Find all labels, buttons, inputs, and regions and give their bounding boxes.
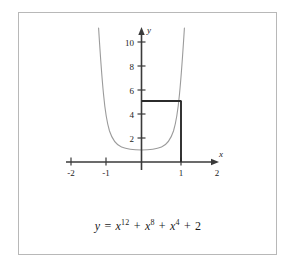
figure-root: 10 8 6 4 2 -2 -1 1 2 y x y = x12 + x8 + … xyxy=(0,0,296,271)
y-axis-label: y xyxy=(146,25,151,35)
y-tick-label-4: 4 xyxy=(130,110,135,120)
y-axis-arrowhead xyxy=(138,27,144,35)
y-tick-label-2: 2 xyxy=(130,134,135,144)
equation-term-3-exponent: 4 xyxy=(176,218,180,227)
equation-plus-1: + xyxy=(133,219,142,233)
x-tick-label-1: 1 xyxy=(179,168,184,178)
equation-constant: 2 xyxy=(195,219,201,233)
equation-plus-2: + xyxy=(158,219,167,233)
equation-plus-3: + xyxy=(183,219,192,233)
x-tick-label-2: 2 xyxy=(215,168,220,178)
equation-caption: y = x12 + x8 + x4 + 2 xyxy=(0,219,296,234)
y-tick-label-8: 8 xyxy=(130,62,135,72)
y-tick-label-10: 10 xyxy=(125,38,135,48)
equation-equals: = xyxy=(103,219,112,233)
x-tick-label-minus2: -2 xyxy=(67,168,75,178)
x-axis-arrowhead xyxy=(211,159,219,165)
equation-term-2-exponent: 8 xyxy=(150,218,154,227)
x-tick-label-minus1: -1 xyxy=(102,168,110,178)
equation-lhs: y xyxy=(95,219,101,233)
y-tick-label-6: 6 xyxy=(130,86,135,96)
x-axis-label: x xyxy=(218,149,223,159)
equation-term-1-exponent: 12 xyxy=(121,218,129,227)
